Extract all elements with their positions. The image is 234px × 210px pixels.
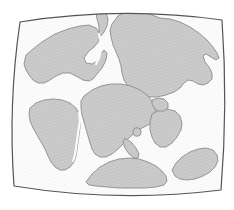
map-canvas: North AmericaGreenland marginEurasiaAfri… bbox=[0, 0, 234, 210]
paleogeographic-map-figure: North AmericaGreenland marginEurasiaAfri… bbox=[0, 0, 234, 210]
landmass-sri-lanka: Sri Lanka bbox=[133, 128, 141, 136]
